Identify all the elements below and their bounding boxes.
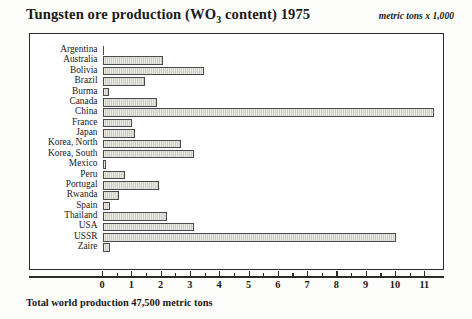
- bar-canada: [103, 98, 157, 107]
- bar-peru: [103, 171, 125, 180]
- x-tick-minor: [146, 273, 147, 276]
- x-tick-minor: [205, 273, 206, 276]
- x-tick: [131, 271, 132, 277]
- bar-china: [103, 108, 434, 117]
- bar-thailand: [103, 212, 167, 221]
- bar-rwanda: [103, 191, 119, 200]
- x-tick: [161, 271, 162, 277]
- bar-rows: ArgentinaAustraliaBoliviaBrazilBurmaCana…: [30, 34, 443, 269]
- bar-japan: [103, 129, 135, 138]
- chart-header: Tungsten ore production (WO3 content) 19…: [0, 0, 472, 30]
- x-tick-label: 2: [158, 279, 163, 290]
- x-tick-label: 0: [99, 279, 104, 290]
- x-tick: [219, 271, 220, 277]
- category-label-china: China: [75, 106, 97, 117]
- category-label-burma: Burma: [72, 86, 98, 97]
- bar-portugal: [103, 181, 159, 190]
- unit-note: metric tons x 1,000: [379, 10, 454, 21]
- category-label-australia: Australia: [63, 54, 97, 65]
- bar-ussr: [103, 233, 396, 242]
- category-label-france: France: [72, 117, 98, 128]
- x-tick-minor: [292, 273, 293, 276]
- x-tick-label: 5: [246, 279, 251, 290]
- category-label-canada: Canada: [69, 96, 97, 107]
- category-label-rwanda: Rwanda: [67, 189, 98, 200]
- x-tick-label: 4: [217, 279, 222, 290]
- category-label-argentina: Argentina: [60, 44, 97, 55]
- category-label-thailand: Thailand: [64, 210, 97, 221]
- bar-korea-south: [103, 150, 194, 159]
- x-tick-label: 1: [129, 279, 134, 290]
- category-label-bolivia: Bolivia: [70, 65, 98, 76]
- bar-bolivia: [103, 67, 204, 76]
- category-label-mexico: Mexico: [69, 158, 98, 169]
- category-label-peru: Peru: [80, 169, 97, 180]
- x-tick-minor: [175, 273, 176, 276]
- category-label-brazil: Brazil: [75, 75, 98, 86]
- bar-spain: [103, 202, 110, 211]
- x-tick: [307, 271, 308, 277]
- x-tick-label: 11: [419, 279, 429, 290]
- x-tick-minor: [117, 273, 118, 276]
- category-label-korea-south: Korea, South: [48, 148, 97, 159]
- x-tick: [395, 271, 396, 277]
- x-tick-minor: [410, 273, 411, 276]
- x-tick: [278, 271, 279, 277]
- x-tick-label: 6: [275, 279, 280, 290]
- x-tick-minor: [380, 273, 381, 276]
- x-tick-label: 9: [363, 279, 368, 290]
- bar-australia: [103, 56, 163, 65]
- x-tick-minor: [351, 273, 352, 276]
- bar-burma: [103, 88, 109, 97]
- x-tick-label: 8: [334, 279, 339, 290]
- category-label-usa: USA: [79, 220, 98, 231]
- category-label-spain: Spain: [76, 200, 97, 211]
- x-tick: [424, 271, 425, 277]
- title-suffix: content) 1975: [221, 6, 310, 22]
- category-label-zaire: Zaire: [78, 241, 98, 252]
- category-label-korea-north: Korea, North: [48, 137, 97, 148]
- x-tick: [102, 271, 103, 277]
- x-tick-label: 10: [390, 279, 400, 290]
- x-tick: [190, 271, 191, 277]
- title-prefix: Tungsten ore production (WO: [26, 6, 216, 22]
- chart-page: Tungsten ore production (WO3 content) 19…: [0, 0, 472, 319]
- x-tick-label: 7: [305, 279, 310, 290]
- plot-frame: ArgentinaAustraliaBoliviaBrazilBurmaCana…: [29, 33, 444, 270]
- bar-row: Zaire: [30, 243, 443, 253]
- x-tick-minor: [322, 273, 323, 276]
- category-label-japan: Japan: [76, 127, 97, 138]
- bar-france: [103, 119, 132, 128]
- x-tick-minor: [234, 273, 235, 276]
- bar-usa: [103, 223, 194, 232]
- bar-argentina: [103, 46, 104, 55]
- x-tick-label: 3: [187, 279, 192, 290]
- bar-korea-north: [103, 140, 181, 149]
- bar-zaire: [103, 243, 110, 252]
- bar-brazil: [103, 77, 145, 86]
- x-tick: [336, 271, 337, 277]
- category-label-ussr: USSR: [74, 231, 97, 242]
- x-axis: 01234567891011: [29, 276, 444, 278]
- category-label-portugal: Portugal: [66, 179, 98, 190]
- x-tick-minor: [263, 273, 264, 276]
- x-tick: [366, 271, 367, 277]
- page-title: Tungsten ore production (WO3 content) 19…: [26, 6, 310, 25]
- x-tick: [249, 271, 250, 277]
- bar-mexico: [103, 160, 106, 169]
- footer-note: Total world production 47,500 metric ton…: [26, 297, 212, 308]
